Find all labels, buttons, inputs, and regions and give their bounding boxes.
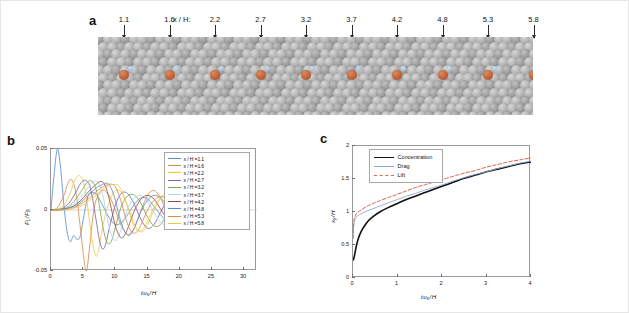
panel-b: b 051015202530-0.0500.05 t us / H FL / F… bbox=[1, 131, 316, 313]
panel-c-legend: ConcentrationDragLift bbox=[369, 149, 443, 183]
panel-a-letter: a bbox=[89, 13, 96, 28]
xh-position-label-5-8: 5.8 bbox=[521, 15, 547, 24]
y-tick bbox=[352, 178, 355, 179]
x-tick-label: 25 bbox=[201, 273, 221, 279]
y-tick-label: 2 bbox=[320, 142, 349, 148]
legend-item: x / H =2.2 bbox=[168, 169, 246, 176]
xh-position-label-2-2: 2.2 bbox=[202, 15, 228, 24]
legend-item: x / H =5.3 bbox=[168, 213, 246, 220]
legend-swatch bbox=[168, 223, 181, 224]
xh-position-label-2-7: 2.7 bbox=[248, 15, 274, 24]
legend-item: x / H =1.6 bbox=[168, 162, 246, 169]
xh-position-label-3-7: 3.7 bbox=[339, 15, 365, 24]
legend-label: x / H =3.2 bbox=[184, 184, 205, 190]
legend-label: Drag bbox=[398, 163, 410, 169]
x-tick-label: 0 bbox=[342, 280, 362, 286]
x-tick-label: 0 bbox=[40, 273, 60, 279]
legend-label: x / H =4.2 bbox=[184, 199, 205, 205]
x-tick bbox=[82, 267, 83, 270]
legend-swatch bbox=[374, 175, 394, 176]
tracer-highlight bbox=[174, 66, 179, 71]
tracer-particle bbox=[256, 70, 266, 80]
xh-position-label-4-2: 4.2 bbox=[384, 15, 410, 24]
legend-swatch bbox=[374, 157, 394, 158]
y-tick-label: 0 bbox=[320, 274, 349, 280]
x-tick bbox=[147, 267, 148, 270]
y-tick-label: -0.05 bbox=[18, 267, 47, 273]
legend-item: x / H =4.8 bbox=[168, 205, 246, 212]
legend-label: Lift bbox=[398, 172, 405, 178]
tracer-highlight bbox=[219, 66, 224, 71]
legend-item: Drag bbox=[374, 162, 438, 171]
legend-swatch bbox=[168, 194, 181, 195]
legend-item: x / H =3.2 bbox=[168, 184, 246, 191]
y-tick bbox=[352, 211, 355, 212]
tracer-particle bbox=[483, 70, 493, 80]
tracer-highlight bbox=[310, 66, 315, 71]
y-tick-label: 0.05 bbox=[18, 145, 47, 151]
tracer-highlight bbox=[265, 66, 270, 71]
panel-b-xlabel: t us / H bbox=[141, 289, 156, 297]
y-tick bbox=[50, 270, 53, 271]
xh-position-arrow bbox=[534, 25, 535, 38]
sphere-lattice bbox=[98, 37, 533, 115]
x-tick-label: 2 bbox=[431, 280, 451, 286]
tracer-highlight bbox=[401, 66, 406, 71]
figure-root: a x / H: 1.11.62.22.73.23.74.24.85.35.8 … bbox=[0, 0, 629, 313]
x-tick bbox=[441, 274, 442, 277]
legend-label: x / H =4.8 bbox=[184, 206, 205, 212]
legend-swatch bbox=[168, 187, 181, 188]
x-tick-label: 1 bbox=[387, 280, 407, 286]
panel-a: a x / H: 1.11.62.22.73.23.74.24.85.35.8 bbox=[1, 1, 629, 131]
legend-item: x / H =3.7 bbox=[168, 191, 246, 198]
xh-position-label-5-3: 5.3 bbox=[475, 15, 501, 24]
legend-label: x / H =5.8 bbox=[184, 220, 205, 226]
tracer-highlight bbox=[356, 66, 361, 71]
legend-item: x / H =4.2 bbox=[168, 198, 246, 205]
x-tick bbox=[486, 274, 487, 277]
x-tick-label: 3 bbox=[476, 280, 496, 286]
tracer-particle bbox=[301, 70, 311, 80]
xh-position-label-4-8: 4.8 bbox=[430, 15, 456, 24]
panel-b-ylabel: FL / FB bbox=[23, 209, 31, 225]
x-tick-label: 4 bbox=[520, 280, 540, 286]
tracer-particle bbox=[165, 70, 175, 80]
legend-swatch bbox=[168, 172, 181, 173]
x-tick bbox=[397, 274, 398, 277]
x-tick bbox=[211, 267, 212, 270]
x-tick-label: 5 bbox=[72, 273, 92, 279]
x-tick-label: 30 bbox=[233, 273, 253, 279]
legend-item: x / H =2.7 bbox=[168, 177, 246, 184]
legend-swatch bbox=[374, 166, 394, 167]
y-tick bbox=[352, 277, 355, 278]
panel-b-letter: b bbox=[7, 133, 15, 148]
granular-bed bbox=[98, 37, 533, 115]
legend-item: Lift bbox=[374, 171, 438, 180]
x-tick-label: 20 bbox=[169, 273, 189, 279]
tracer-highlight bbox=[447, 66, 452, 71]
y-tick bbox=[352, 145, 355, 146]
y-tick bbox=[352, 244, 355, 245]
x-tick bbox=[243, 267, 244, 270]
legend-label: x / H =1.6 bbox=[184, 163, 205, 169]
legend-swatch bbox=[168, 158, 181, 159]
panel-c-ylabel: xy / H bbox=[329, 210, 337, 223]
y-tick bbox=[50, 209, 53, 210]
xh-position-label-1-1: 1.1 bbox=[111, 15, 137, 24]
legend-item: Concentration bbox=[374, 153, 438, 162]
tracer-particle bbox=[119, 70, 129, 80]
tracer-particle bbox=[392, 70, 402, 80]
tracer-particle bbox=[438, 70, 448, 80]
series-line bbox=[51, 176, 180, 257]
panel-c: c 0123400.511.52 t us / H xy / H Concent… bbox=[316, 131, 629, 313]
x-tick bbox=[530, 274, 531, 277]
x-tick bbox=[179, 267, 180, 270]
legend-label: Concentration bbox=[398, 154, 433, 160]
x-tick-label: 15 bbox=[137, 273, 157, 279]
y-tick bbox=[50, 148, 53, 149]
tracer-highlight bbox=[492, 66, 497, 71]
x-tick-label: 10 bbox=[104, 273, 124, 279]
legend-swatch bbox=[168, 208, 181, 209]
legend-item: x / H =1.1 bbox=[168, 155, 246, 162]
legend-swatch bbox=[168, 216, 181, 217]
